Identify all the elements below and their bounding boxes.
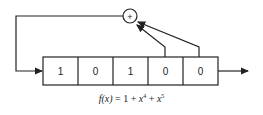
- formula-lhs: f(x): [99, 93, 113, 104]
- formula-exp-5: 5: [161, 93, 164, 99]
- formula-plus-1: +: [131, 93, 137, 104]
- register-cell-5: 0: [198, 66, 204, 77]
- xor-node: +: [123, 9, 137, 23]
- formula-exp-4: 4: [143, 93, 146, 99]
- tap-line-4: [137, 25, 165, 57]
- svg-text:+: +: [127, 12, 132, 22]
- formula-equals: =: [115, 93, 121, 104]
- register-cell-4: 0: [163, 66, 169, 77]
- shift-register: 1 0 1 0 0: [43, 57, 218, 85]
- polynomial-formula: f(x) = 1 + x4 + x5: [0, 93, 263, 104]
- tap-line-5: [138, 22, 199, 57]
- register-cell-2: 0: [93, 66, 99, 77]
- formula-plus-2: +: [149, 93, 155, 104]
- register-cell-3: 1: [128, 66, 134, 77]
- register-cell-1: 1: [58, 66, 64, 77]
- formula-term-1: 1: [123, 93, 128, 104]
